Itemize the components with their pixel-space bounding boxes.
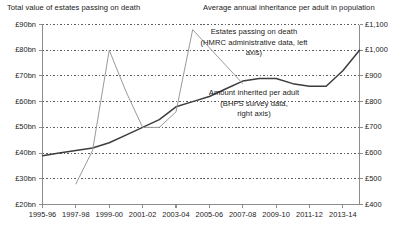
left-tick-label: £30bn: [2, 174, 36, 183]
right-tick-label: £800: [365, 97, 405, 106]
right-tick-label: £700: [365, 122, 405, 131]
left-tick-label: £20bn: [2, 200, 36, 209]
right-tick-label: £900: [365, 71, 405, 80]
right-tick-label: £400: [365, 200, 405, 209]
left-tick-label: £60bn: [2, 97, 36, 106]
left-tick-label: £80bn: [2, 45, 36, 54]
left-axis-title: Total value of estates passing on death: [7, 3, 140, 12]
left-tick-label: £40bn: [2, 148, 36, 157]
right-tick-label: £1,100: [365, 20, 405, 29]
x-tick-label: 2013-14: [320, 210, 366, 219]
left-tick-label: £70bn: [2, 71, 36, 80]
right-tick-label: £500: [365, 174, 405, 183]
right-axis-title: Average annual inheritance per adult in …: [203, 3, 375, 12]
annotation-estates-series: Estates passing on death (HMRC administr…: [186, 27, 322, 59]
chart-container: Total value of estates passing on death …: [0, 0, 413, 227]
right-tick-label: £600: [365, 148, 405, 157]
left-tick-label: £50bn: [2, 122, 36, 131]
right-tick-label: £1,000: [365, 45, 405, 54]
left-tick-label: £90bn: [2, 20, 36, 29]
annotation-inherited-series: Amount inherited per adult (BHPS survey …: [186, 88, 322, 120]
